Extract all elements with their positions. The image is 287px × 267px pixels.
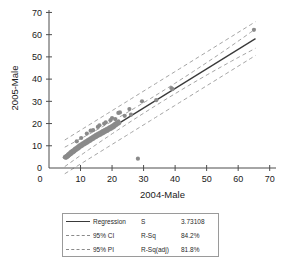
ci-lower-line (65, 48, 256, 166)
fitted-line-plot: 010203040506070 2005-Male 01020304050607… (0, 0, 287, 267)
pi-lower-line (65, 55, 256, 173)
y-tick-label: 40 (32, 74, 42, 84)
legend-label: Regression (93, 214, 141, 228)
x-tick-label: 30 (139, 174, 149, 184)
data-point (140, 99, 144, 103)
data-point (110, 116, 114, 120)
statistic-name: R-Sq(adj) (141, 242, 181, 256)
data-point (252, 28, 256, 32)
data-point (104, 120, 108, 124)
y-tick-label: 20 (32, 119, 42, 129)
legend-label: 95% CI (93, 228, 141, 242)
y-tick-label: 30 (32, 97, 42, 107)
data-point (75, 139, 79, 143)
data-point (123, 114, 127, 118)
data-point (129, 113, 133, 117)
legend-row: 95% PIR-Sq(adj)81.8% (63, 242, 218, 256)
y-axis: 010203040506070 2005-Male (9, 8, 52, 174)
dashed-line-icon (66, 249, 90, 250)
legend-swatch-cell (63, 242, 93, 256)
data-points-group (63, 28, 256, 161)
y-tick-label: 70 (32, 8, 42, 18)
statistic-value: 84.2% (181, 228, 218, 242)
x-tick-label: 70 (265, 174, 275, 184)
data-point (117, 121, 121, 125)
legend-row: 95% CIR-Sq84.2% (63, 228, 218, 242)
data-point (154, 98, 158, 102)
legend-table: RegressionS3.7310895% CIR-Sq84.2%95% PIR… (63, 214, 218, 256)
x-tick-label: 50 (202, 174, 212, 184)
x-axis: 010203040506070 2004-Male (37, 165, 276, 200)
y-tick-label: 0 (37, 163, 42, 173)
x-tick-label: 0 (37, 174, 42, 184)
x-tick-label: 60 (233, 174, 243, 184)
x-tick-label: 20 (107, 174, 117, 184)
legend-label: 95% PI (93, 242, 141, 256)
statistic-value: 3.73108 (181, 214, 218, 228)
y-tick-label: 50 (32, 52, 42, 62)
data-point (116, 111, 120, 115)
pi-upper-line (65, 22, 256, 140)
legend-row: RegressionS3.73108 (63, 214, 218, 228)
x-tick-label: 40 (170, 174, 180, 184)
y-axis-title: 2005-Male (9, 66, 20, 111)
dashed-line-icon (66, 235, 90, 236)
x-tick-label: 10 (76, 174, 86, 184)
data-point (79, 136, 83, 140)
data-point (91, 128, 95, 132)
statistic-name: R-Sq (141, 228, 181, 242)
y-tick-label: 60 (32, 30, 42, 40)
data-point (170, 87, 174, 91)
y-tick-label: 10 (32, 141, 42, 151)
statistic-value: 81.8% (181, 242, 218, 256)
legend-swatch-cell (63, 214, 93, 228)
legend-swatch-cell (63, 228, 93, 242)
solid-line-icon (66, 221, 90, 222)
data-point (127, 107, 131, 111)
legend-panel: RegressionS3.7310895% CIR-Sq84.2%95% PIR… (62, 213, 219, 257)
statistic-name: S (141, 214, 181, 228)
data-point (97, 123, 101, 127)
data-point (85, 131, 89, 135)
data-point (136, 157, 140, 161)
x-axis-title: 2004-Male (140, 189, 185, 200)
scatter-plot-canvas: 010203040506070 2005-Male 01020304050607… (0, 0, 287, 210)
